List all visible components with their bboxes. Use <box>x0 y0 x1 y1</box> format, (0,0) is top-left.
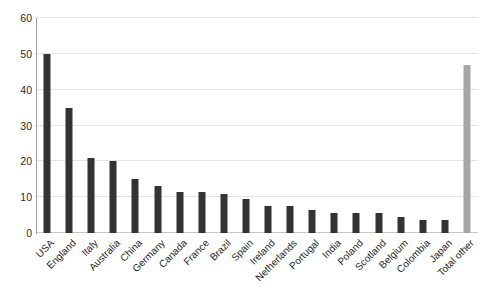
bar-slot <box>213 18 235 233</box>
bar-slot <box>368 18 390 233</box>
bar-slot <box>390 18 412 233</box>
bar-usa[interactable] <box>44 54 51 233</box>
y-tick-label: 30 <box>0 120 32 131</box>
bar-slot <box>279 18 301 233</box>
y-tick-label: 60 <box>0 13 32 24</box>
bar-slot <box>456 18 478 233</box>
y-tick-label: 20 <box>0 156 32 167</box>
bar-slot <box>147 18 169 233</box>
bar-total-other[interactable] <box>463 65 470 233</box>
bar-slot <box>345 18 367 233</box>
bar-slot <box>412 18 434 233</box>
y-tick-label: 40 <box>0 84 32 95</box>
x-label-slot: Colombia <box>412 236 434 305</box>
x-label-slot: Spain <box>235 236 257 305</box>
bar-australia[interactable] <box>110 161 117 233</box>
bar-slot <box>323 18 345 233</box>
x-label-slot: Poland <box>345 236 367 305</box>
bar-slot <box>191 18 213 233</box>
bar-slot <box>58 18 80 233</box>
bar-series <box>36 18 478 233</box>
x-label-slot: France <box>191 236 213 305</box>
x-label-slot: Brazil <box>213 236 235 305</box>
x-label-slot: Scotland <box>368 236 390 305</box>
x-label-slot: USA <box>36 236 58 305</box>
x-axis-category-labels: USAEnglandItalyAustraliaChinaGermanyCana… <box>36 236 478 305</box>
y-tick-label: 10 <box>0 192 32 203</box>
bar-england[interactable] <box>66 108 73 233</box>
x-label-slot: Canada <box>169 236 191 305</box>
bar-slot <box>36 18 58 233</box>
x-label-slot: England <box>58 236 80 305</box>
bar-slot <box>169 18 191 233</box>
bar-chart: 0102030405060 USAEnglandItalyAustraliaCh… <box>0 0 484 305</box>
x-label-slot: Total other <box>456 236 478 305</box>
bar-slot <box>434 18 456 233</box>
bar-slot <box>124 18 146 233</box>
bar-slot <box>80 18 102 233</box>
bar-slot <box>102 18 124 233</box>
x-label-slot: Australia <box>102 236 124 305</box>
bar-slot <box>301 18 323 233</box>
x-label-slot: Netherlands <box>279 236 301 305</box>
bar-slot <box>257 18 279 233</box>
x-label-slot: Italy <box>80 236 102 305</box>
y-axis-tick-labels: 0102030405060 <box>0 18 32 233</box>
y-tick-label: 0 <box>0 228 32 239</box>
x-label-slot: Portugal <box>301 236 323 305</box>
bar-slot <box>235 18 257 233</box>
x-label-slot: Germany <box>147 236 169 305</box>
x-label-slot: India <box>323 236 345 305</box>
y-tick-label: 50 <box>0 49 32 60</box>
